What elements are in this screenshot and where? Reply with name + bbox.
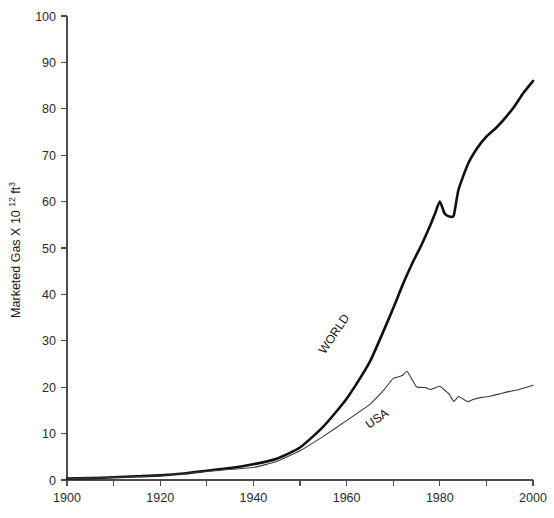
axes: 0102030405060708090100 19001920194019601… bbox=[35, 10, 547, 506]
svg-text:Marketed Gas X 10 12 ft3: Marketed Gas X 10 12 ft3 bbox=[7, 182, 23, 318]
y-tick-label: 100 bbox=[35, 10, 56, 24]
x-tick-label: 1980 bbox=[426, 491, 454, 505]
series-line-usa bbox=[67, 371, 533, 478]
series-inline-labels: WORLDUSA bbox=[316, 311, 391, 431]
y-tick-label: 70 bbox=[42, 149, 56, 163]
y-tick-label: 90 bbox=[42, 56, 56, 70]
gas-production-line-chart: 0102030405060708090100 19001920194019601… bbox=[0, 0, 554, 518]
x-tick-label: 1900 bbox=[53, 491, 81, 505]
data-series bbox=[67, 81, 533, 479]
x-axis-ticks bbox=[67, 480, 533, 486]
series-label-world: WORLD bbox=[316, 311, 353, 356]
y-tick-label: 0 bbox=[49, 474, 56, 488]
y-tick-label: 40 bbox=[42, 288, 56, 302]
y-tick-label: 80 bbox=[42, 102, 56, 116]
series-label-usa: USA bbox=[363, 406, 391, 431]
y-axis-ticks bbox=[61, 16, 67, 480]
x-tick-label: 1940 bbox=[239, 491, 267, 505]
x-tick-label: 1920 bbox=[146, 491, 174, 505]
chart-container: 0102030405060708090100 19001920194019601… bbox=[0, 0, 554, 518]
y-axis-title: Marketed Gas X 10 12 ft3 bbox=[7, 182, 23, 318]
y-tick-label: 60 bbox=[42, 195, 56, 209]
y-axis-tick-labels: 0102030405060708090100 bbox=[35, 10, 56, 488]
x-tick-label: 2000 bbox=[519, 491, 547, 505]
x-tick-label: 1960 bbox=[333, 491, 361, 505]
y-tick-label: 20 bbox=[42, 381, 56, 395]
y-tick-label: 30 bbox=[42, 334, 56, 348]
y-tick-label: 10 bbox=[42, 427, 56, 441]
y-tick-label: 50 bbox=[42, 242, 56, 256]
x-axis-tick-labels: 190019201940196019802000 bbox=[53, 491, 547, 505]
series-line-world bbox=[67, 81, 533, 479]
